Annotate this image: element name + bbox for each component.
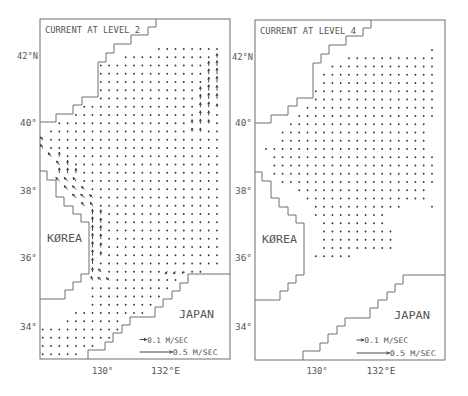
current-dot — [332, 148, 334, 150]
current-arrow — [216, 94, 218, 98]
current-arrow — [208, 62, 210, 66]
current-dot — [315, 206, 317, 208]
legend-label-0-1: 0.1 M/SEC — [364, 336, 408, 345]
current-dot — [415, 107, 417, 109]
current-arrow — [73, 178, 76, 181]
lat-label-38: 38° — [20, 187, 37, 196]
current-dot — [183, 131, 185, 133]
current-dot — [67, 155, 69, 157]
current-dot — [183, 164, 185, 166]
current-dot — [348, 90, 350, 92]
current-dot — [150, 122, 152, 124]
current-dot — [315, 165, 317, 167]
current-dot — [100, 263, 102, 265]
current-dot — [323, 231, 325, 233]
current-dot — [183, 213, 185, 215]
current-dot — [323, 115, 325, 117]
current-dot — [381, 99, 383, 101]
current-dot — [117, 81, 119, 83]
current-vector-maps: CURRENT AT LEVEL 2 42°N 40° 38° 36° 34° … — [0, 0, 468, 396]
current-dot — [125, 213, 127, 215]
current-dot — [58, 345, 60, 347]
current-dot — [365, 123, 367, 125]
current-dot — [415, 173, 417, 175]
current-dot — [381, 239, 383, 241]
current-dot — [133, 312, 135, 314]
current-dot — [431, 57, 433, 59]
lat-label-36: 36° — [235, 254, 252, 263]
current-dot — [365, 99, 367, 101]
current-dot — [356, 90, 358, 92]
current-dot — [191, 139, 193, 141]
current-dot — [298, 165, 300, 167]
current-dot — [75, 114, 77, 116]
current-dot — [191, 238, 193, 240]
current-dot — [423, 57, 425, 59]
current-dot — [365, 140, 367, 142]
current-dot — [117, 131, 119, 133]
current-dot — [183, 180, 185, 182]
current-dot — [133, 230, 135, 232]
current-dot — [191, 180, 193, 182]
current-dot — [183, 172, 185, 174]
current-dot — [83, 320, 85, 322]
current-dot — [175, 98, 177, 100]
current-dot — [216, 230, 218, 232]
land-label-japan: JAPAN — [179, 308, 214, 321]
current-dot — [158, 147, 160, 149]
current-dot — [348, 99, 350, 101]
current-dot — [117, 213, 119, 215]
current-dot — [141, 106, 143, 108]
current-dot — [390, 66, 392, 68]
current-dot — [133, 188, 135, 190]
current-dot — [208, 180, 210, 182]
current-dot — [390, 82, 392, 84]
current-dot — [125, 188, 127, 190]
current-dot — [348, 181, 350, 183]
current-dot — [117, 139, 119, 141]
current-dot — [356, 156, 358, 158]
current-dot — [323, 181, 325, 183]
current-dot — [332, 239, 334, 241]
lat-label-40: 40° — [20, 119, 37, 128]
current-dot — [332, 198, 334, 200]
current-dot — [348, 189, 350, 191]
current-dot — [415, 82, 417, 84]
current-dot — [365, 173, 367, 175]
current-dot — [200, 230, 202, 232]
current-dot — [307, 198, 309, 200]
current-dot — [398, 66, 400, 68]
current-dot — [183, 122, 185, 124]
current-dot — [125, 230, 127, 232]
current-dot — [323, 74, 325, 76]
panel-title: CURRENT AT LEVEL 4 — [260, 26, 356, 36]
current-dot — [133, 114, 135, 116]
current-dot — [83, 122, 85, 124]
current-dot — [356, 123, 358, 125]
current-vectors — [265, 49, 433, 257]
current-dot — [200, 180, 202, 182]
current-dot — [390, 231, 392, 233]
current-dot — [423, 140, 425, 142]
current-dot — [356, 206, 358, 208]
current-dot — [348, 57, 350, 59]
current-dot — [108, 65, 110, 67]
current-dot — [200, 73, 202, 75]
current-dot — [406, 74, 408, 76]
current-dot — [92, 188, 94, 190]
current-dot — [216, 221, 218, 223]
current-dot — [423, 198, 425, 200]
current-dot — [83, 329, 85, 331]
current-dot — [340, 173, 342, 175]
current-dot — [340, 231, 342, 233]
current-dot — [348, 74, 350, 76]
current-dot — [398, 123, 400, 125]
current-dot — [356, 181, 358, 183]
current-dot — [323, 156, 325, 158]
current-dot — [348, 239, 350, 241]
legend-arrow-0-5 — [357, 352, 389, 354]
current-dot — [398, 115, 400, 117]
current-dot — [75, 353, 77, 355]
current-dot — [415, 74, 417, 76]
current-dot — [183, 48, 185, 50]
